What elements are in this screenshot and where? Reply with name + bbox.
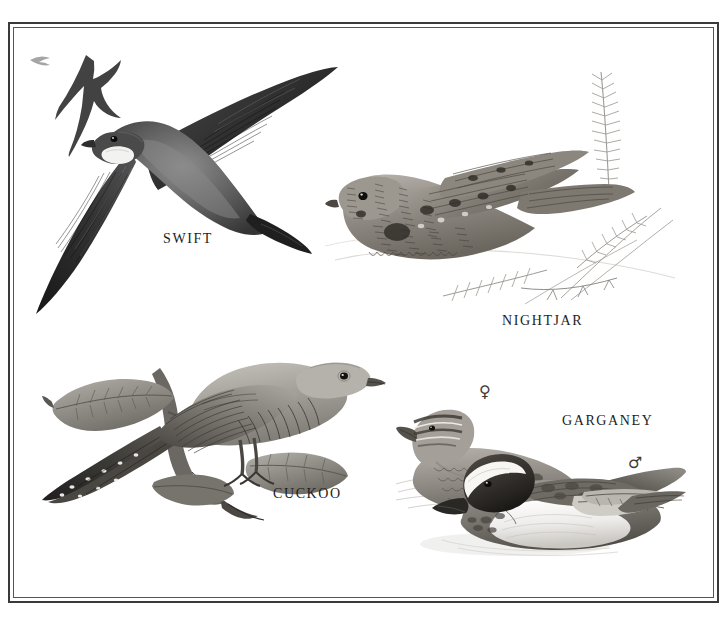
distant-swift-small	[30, 56, 50, 65]
cuckoo-illustration	[42, 332, 372, 532]
illustration-plate: SWIFT NIGHTJAR CUCKOO GARGANEY ♀ ♂	[0, 0, 728, 629]
species-label-nightjar: NIGHTJAR	[502, 313, 583, 329]
swift-illustration	[18, 40, 338, 330]
female-symbol: ♀	[479, 384, 491, 400]
male-symbol: ♂	[628, 455, 642, 471]
nightjar-illustration	[325, 60, 680, 315]
swift-main-bird	[36, 67, 338, 314]
nightjar-bird	[325, 151, 635, 260]
species-label-garganey: GARGANEY	[562, 413, 653, 429]
species-label-cuckoo: CUCKOO	[273, 486, 342, 502]
species-label-swift: SWIFT	[163, 231, 213, 247]
